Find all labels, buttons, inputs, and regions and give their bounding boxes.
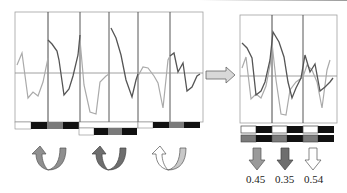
down-arrow-3-icon — [305, 148, 321, 170]
dark-series-seg4 — [111, 28, 138, 97]
right-color-bar-1 — [241, 126, 334, 133]
diagram-canvas — [0, 0, 347, 193]
value-label-1: 0.45 — [246, 173, 265, 185]
right-chart-panel — [240, 15, 337, 170]
light-series-seg3 — [80, 40, 109, 114]
light-series-seg1 — [17, 53, 48, 98]
down-arrow-1-icon — [249, 148, 265, 170]
right-color-bar-2 — [241, 135, 334, 142]
value-label-3: 0.54 — [304, 173, 323, 185]
color-code-bar-2 — [79, 122, 138, 135]
dark-series-seg2 — [48, 35, 80, 95]
down-arrow-2-icon — [277, 148, 293, 170]
left-chart-panel — [15, 12, 203, 170]
dark-series-seg6 — [170, 53, 200, 91]
rotation-arrow-3-icon — [152, 146, 186, 170]
right-dark-series — [242, 32, 333, 98]
light-series-seg5 — [138, 56, 170, 108]
color-code-bar-1 — [15, 122, 79, 129]
right-light-series — [242, 43, 330, 115]
right-arrow-icon — [206, 67, 235, 83]
color-code-bar-3 — [138, 122, 200, 128]
rotation-arrow-1-icon — [32, 146, 66, 170]
value-label-2: 0.35 — [275, 173, 294, 185]
rotation-arrow-2-icon — [92, 146, 126, 170]
